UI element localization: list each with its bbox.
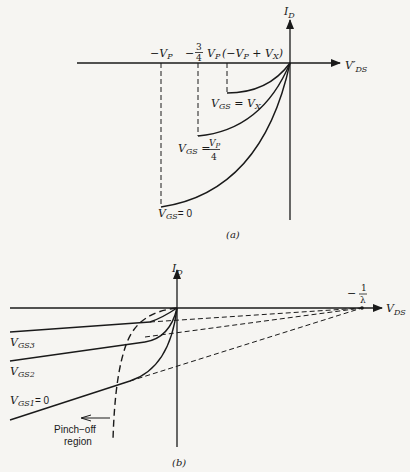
- b-intercept-label: − 1 λ: [347, 283, 367, 305]
- svg-text:VP: VP: [209, 138, 221, 150]
- b-pinch-off-label-2: region: [64, 436, 92, 447]
- b-pinch-off-label-1: Pinch−off: [54, 424, 96, 435]
- a-curve-vgs-vx: [227, 63, 290, 93]
- jfet-characteristics-figure: ID V′DS −VP − 3 4 VP (−VP + VX) VGS = VX…: [0, 0, 410, 472]
- b-extrap-vgs1: [130, 308, 362, 381]
- a-label-vgs-0: VGS= 0: [158, 207, 192, 221]
- a-tick-vp-plus-vx: (−VP + VX): [222, 47, 283, 61]
- a-x-axis-label: V′DS: [345, 59, 368, 74]
- a-y-axis-label: ID: [283, 5, 295, 20]
- figure-a: ID V′DS −VP − 3 4 VP (−VP + VX) VGS = VX…: [77, 5, 368, 240]
- b-label-vgs1: VGS1= 0: [10, 394, 50, 408]
- a-tick-neg-vp: −VP: [150, 47, 173, 61]
- b-label-vgs2: VGS2: [10, 365, 35, 379]
- svg-text:4: 4: [211, 152, 217, 162]
- b-curve-vgs2: [145, 308, 177, 342]
- b-y-axis-label: ID: [171, 262, 183, 277]
- svg-text:4: 4: [196, 53, 202, 63]
- b-caption: (b): [172, 457, 186, 468]
- a-curve-vgs-0: [161, 63, 290, 207]
- figure-b: ID VDS − 1 λ VGS3 VGS2 VGS1= 0 Pinch−off: [10, 262, 406, 468]
- a-caption: (a): [226, 229, 240, 240]
- a-label-vgs-vx: VGS = VX: [211, 97, 261, 111]
- b-label-vgs3: VGS3: [10, 336, 35, 350]
- b-x-axis-label: VDS: [386, 302, 406, 317]
- svg-text:−: −: [185, 47, 194, 60]
- svg-text:3: 3: [196, 42, 202, 52]
- svg-text:VP: VP: [207, 47, 221, 61]
- a-label-vgs-vp4: VGS = VP 4: [178, 138, 221, 162]
- b-curve-vgs1: [130, 308, 177, 381]
- svg-text:−: −: [347, 287, 356, 300]
- b-line-vgs3: [10, 322, 150, 332]
- b-extrap-vgs3: [150, 308, 362, 322]
- a-tick-three-quarter-vp: − 3 4 VP: [185, 42, 221, 63]
- svg-text:λ: λ: [360, 295, 366, 305]
- svg-text:VGS =: VGS =: [178, 142, 211, 156]
- svg-text:1: 1: [361, 283, 367, 293]
